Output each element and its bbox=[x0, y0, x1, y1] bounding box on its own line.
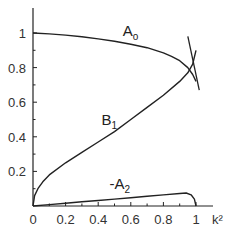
y-tick-label: 0.4 bbox=[8, 130, 26, 145]
label-A0: Ao bbox=[123, 22, 139, 42]
x-tick-label: 0.2 bbox=[57, 212, 75, 227]
y-tick-label: 1 bbox=[19, 26, 26, 41]
x-tick-label: 0.8 bbox=[154, 212, 172, 227]
x-tick-label: 1 bbox=[192, 212, 199, 227]
y-tick-label: 0.6 bbox=[8, 95, 26, 110]
line-chart: 00.20.40.60.810.20.40.60.81k²AoB1-A2 bbox=[0, 0, 236, 234]
label-B1: B1 bbox=[101, 111, 117, 131]
crossing-mark bbox=[188, 36, 199, 90]
x-tick-label: 0.6 bbox=[122, 212, 140, 227]
label--A2: -A2 bbox=[110, 175, 131, 195]
y-tick-label: 0.2 bbox=[8, 164, 26, 179]
curve-A0 bbox=[33, 33, 196, 81]
y-tick-label: 0.8 bbox=[8, 61, 26, 76]
x-axis-label: k² bbox=[212, 212, 224, 227]
x-tick-label: 0 bbox=[29, 212, 36, 227]
x-tick-label: 0.4 bbox=[89, 212, 107, 227]
